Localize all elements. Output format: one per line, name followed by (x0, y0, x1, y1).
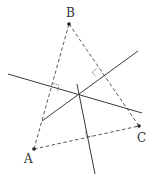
label-b: B (66, 6, 75, 20)
point-b (67, 22, 71, 26)
right-angle-mark-bc (92, 69, 96, 77)
bisector-ac (77, 84, 95, 174)
bisector-bc (42, 51, 138, 121)
point-c (137, 124, 141, 128)
triangle-circumcenter-diagram: A B C (0, 0, 153, 182)
label-a: A (23, 152, 33, 166)
point-a (32, 147, 36, 151)
side-bc (69, 24, 139, 126)
right-angle-markers (53, 69, 96, 137)
vertex-labels: A B C (23, 6, 146, 166)
bisector-ab (8, 74, 142, 113)
label-c: C (137, 131, 146, 145)
